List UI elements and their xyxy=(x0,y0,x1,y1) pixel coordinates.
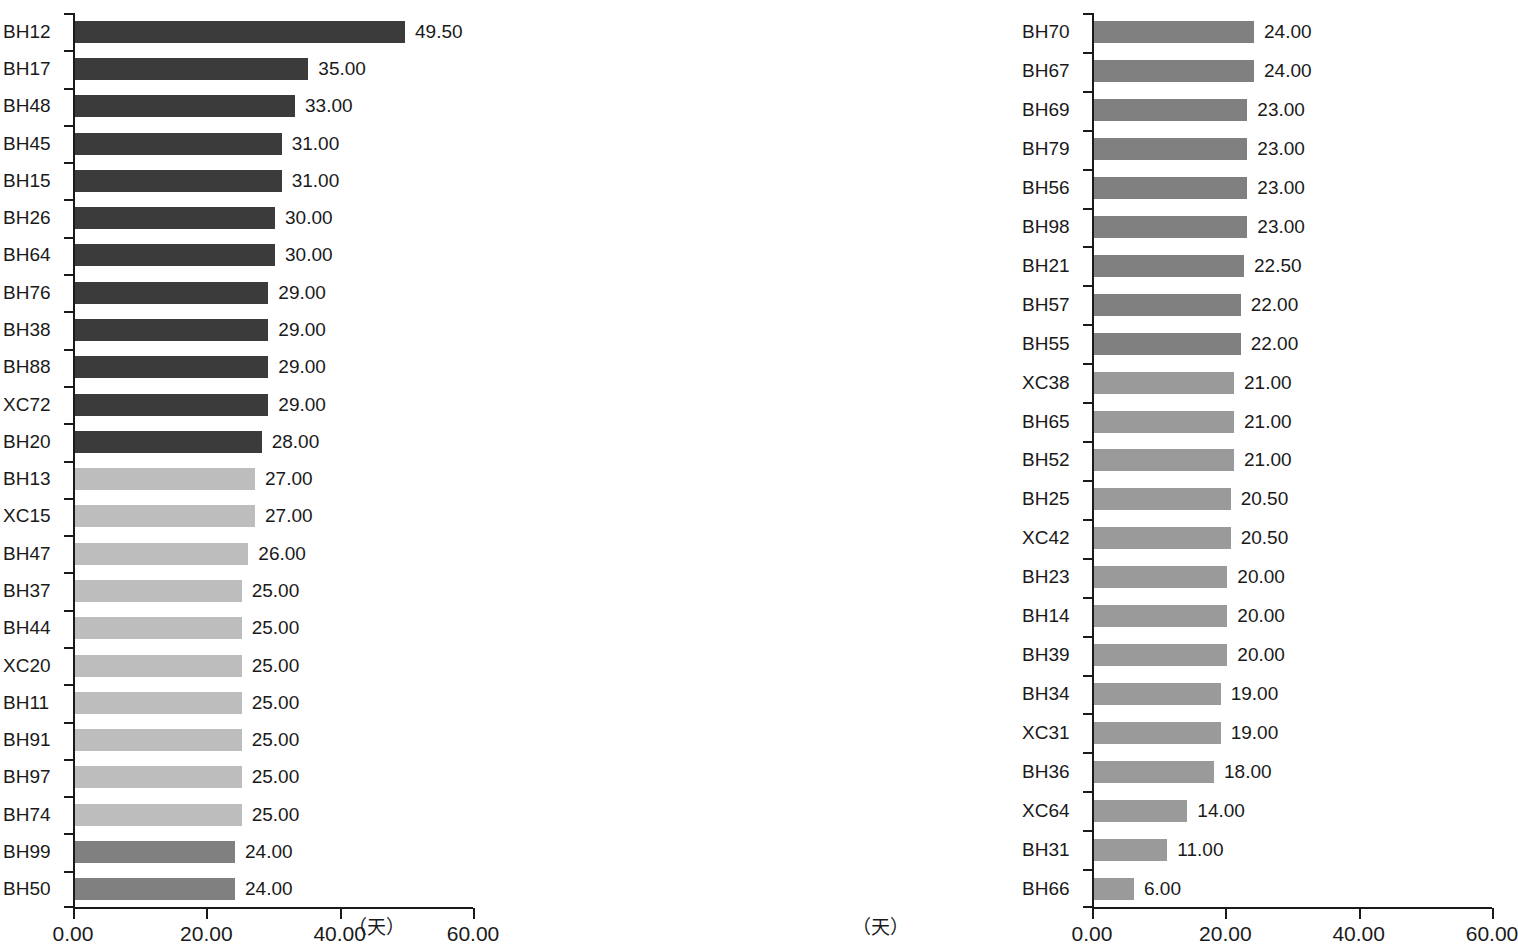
y-axis-tick xyxy=(1083,169,1092,171)
bar-row: BH7923.00 xyxy=(1092,130,1492,169)
bar-value-label: 6.00 xyxy=(1144,878,1181,900)
x-axis-tick-labels-left: 0.0020.0040.0060.00 xyxy=(73,922,473,949)
category-label: BH70 xyxy=(1022,21,1086,43)
bar xyxy=(1094,761,1214,783)
y-axis-tick xyxy=(64,535,73,537)
bar-value-label: 11.00 xyxy=(1177,839,1223,861)
unit-label-right: （天） xyxy=(852,912,909,939)
y-axis-tick xyxy=(64,162,73,164)
bar-row: BH3419.00 xyxy=(1092,675,1492,714)
y-axis-tick xyxy=(1083,713,1092,715)
x-axis-tick-label: 60.00 xyxy=(447,922,500,946)
bar-row: BH3618.00 xyxy=(1092,752,1492,791)
bar-row: BH2630.00 xyxy=(73,199,473,236)
x-axis-tick xyxy=(1359,908,1361,919)
bar-value-label: 29.00 xyxy=(278,356,326,378)
category-label: XC64 xyxy=(1022,800,1086,822)
category-label: BH14 xyxy=(1022,605,1086,627)
bar-value-label: 25.00 xyxy=(252,729,300,751)
bar xyxy=(75,282,268,304)
bar-row: BH6724.00 xyxy=(1092,52,1492,91)
bar-value-label: 19.00 xyxy=(1231,722,1279,744)
category-label: BH99 xyxy=(3,841,67,863)
category-label: XC38 xyxy=(1022,372,1086,394)
bar xyxy=(75,841,235,863)
bar-rows-left: BH1249.50BH1735.00BH4833.00BH4531.00BH15… xyxy=(73,13,473,908)
bar-value-label: 25.00 xyxy=(252,804,300,826)
y-axis-tick xyxy=(64,572,73,574)
bar-row: BH9725.00 xyxy=(73,759,473,796)
category-label: BH76 xyxy=(3,282,67,304)
bar-value-label: 19.00 xyxy=(1231,683,1279,705)
bar-value-label: 18.00 xyxy=(1224,761,1272,783)
x-axis-tick-label: 40.00 xyxy=(1332,922,1385,946)
bar xyxy=(1094,605,1227,627)
bar-value-label: 20.50 xyxy=(1241,527,1289,549)
category-label: BH91 xyxy=(3,729,67,751)
category-label: BH50 xyxy=(3,878,67,900)
category-label: XC15 xyxy=(3,505,67,527)
bar-value-label: 14.00 xyxy=(1197,800,1245,822)
category-label: BH25 xyxy=(1022,488,1086,510)
unit-label-left: （天） xyxy=(348,912,405,939)
category-label: BH74 xyxy=(3,804,67,826)
y-axis-tick xyxy=(1083,636,1092,638)
category-label: BH66 xyxy=(1022,878,1086,900)
chart-panel-left: BH1249.50BH1735.00BH4833.00BH4531.00BH15… xyxy=(0,0,504,949)
category-label: BH21 xyxy=(1022,255,1086,277)
category-label: BH12 xyxy=(3,21,67,43)
category-label: BH98 xyxy=(1022,216,1086,238)
bar-value-label: 33.00 xyxy=(305,95,353,117)
category-label: BH79 xyxy=(1022,138,1086,160)
bar-row: BH1125.00 xyxy=(73,684,473,721)
y-axis-tick xyxy=(64,423,73,425)
bar-value-label: 24.00 xyxy=(245,878,293,900)
bar-value-label: 20.00 xyxy=(1237,566,1285,588)
y-axis-tick xyxy=(1083,246,1092,248)
y-axis-tick xyxy=(64,796,73,798)
bar xyxy=(75,95,295,117)
x-axis-tick-label: 20.00 xyxy=(1199,922,1252,946)
bar xyxy=(1094,722,1221,744)
bar-value-label: 30.00 xyxy=(285,244,333,266)
chart-panel-right: BH7024.00BH6724.00BH6923.00BH7923.00BH56… xyxy=(504,0,1009,949)
category-label: BH65 xyxy=(1022,411,1086,433)
bar xyxy=(75,319,268,341)
bar-row: BH6923.00 xyxy=(1092,91,1492,130)
bar xyxy=(75,356,268,378)
bar-row: BH1327.00 xyxy=(73,461,473,498)
bar-row: BH6521.00 xyxy=(1092,402,1492,441)
category-label: XC72 xyxy=(3,394,67,416)
bar-value-label: 28.00 xyxy=(272,431,320,453)
bar-value-label: 20.00 xyxy=(1237,605,1285,627)
bar-value-label: 25.00 xyxy=(252,766,300,788)
y-axis-tick xyxy=(64,833,73,835)
bar xyxy=(1094,488,1231,510)
y-axis-tick xyxy=(1083,285,1092,287)
x-axis-tick xyxy=(73,908,75,919)
bar-row: XC2025.00 xyxy=(73,647,473,684)
bar xyxy=(1094,878,1134,900)
bar-row: BH6430.00 xyxy=(73,237,473,274)
bar-value-label: 35.00 xyxy=(318,58,366,80)
y-axis-tick xyxy=(1083,363,1092,365)
bar xyxy=(75,505,255,527)
bar xyxy=(1094,372,1234,394)
bar xyxy=(75,729,242,751)
bar-value-label: 21.00 xyxy=(1244,449,1292,471)
y-axis-tick xyxy=(1083,402,1092,404)
bar-value-label: 49.50 xyxy=(415,21,463,43)
bar xyxy=(1094,839,1167,861)
bar xyxy=(1094,99,1247,121)
x-axis-tick xyxy=(206,908,208,919)
y-axis-tick xyxy=(1083,675,1092,677)
bar xyxy=(75,878,235,900)
category-label: BH36 xyxy=(1022,761,1086,783)
bar xyxy=(1094,411,1234,433)
bar-row: XC3119.00 xyxy=(1092,713,1492,752)
category-label: BH47 xyxy=(3,543,67,565)
bar-row: BH7425.00 xyxy=(73,796,473,833)
x-axis-tick-label: 0.00 xyxy=(1072,922,1113,946)
bar xyxy=(1094,333,1241,355)
bar xyxy=(75,468,255,490)
